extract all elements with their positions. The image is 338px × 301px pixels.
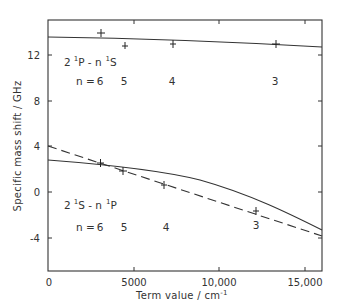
upper-fit-line — [48, 37, 322, 47]
upper-n-4: 4 — [169, 75, 176, 87]
x-ticks — [134, 267, 305, 271]
y-tick-8: 8 — [34, 96, 40, 107]
y-tick-4: 4 — [34, 141, 40, 152]
plus-marker-icon — [119, 167, 127, 175]
plus-marker-icon — [170, 40, 176, 48]
y-tick-minus4: -4 — [30, 233, 40, 244]
plus-marker-icon — [97, 159, 104, 167]
lower-n-3: 3 — [253, 219, 260, 231]
lower-n-4: 4 — [163, 221, 170, 233]
lower-transition-label: 21S - n1P — [64, 198, 117, 211]
y-tick-12: 12 — [27, 50, 40, 61]
lower-n-6: 6 — [97, 221, 104, 233]
y-axis-label: Specific mass shift / GHz — [12, 81, 23, 212]
upper-n-prefix: n = — [76, 75, 95, 87]
x-tick-0: 0 — [46, 277, 52, 288]
right-ticks — [318, 55, 322, 238]
y-tick-0: 0 — [34, 187, 40, 198]
x-tick-15000: 15,000 — [288, 277, 323, 288]
lower-n-prefix: n = — [76, 221, 95, 233]
mass-shift-chart: 12 8 4 0 -4 0 5000 10,000 15,000 Term va… — [0, 0, 338, 301]
upper-n-5: 5 — [121, 75, 128, 87]
upper-n-3: 3 — [272, 75, 279, 87]
plus-marker-icon — [161, 181, 167, 189]
plus-marker-icon — [122, 42, 128, 49]
plus-marker-icon — [272, 40, 280, 48]
upper-transition-label: 21P - n1S — [64, 55, 117, 68]
lower-n-5: 5 — [121, 221, 128, 233]
plus-marker-icon — [97, 29, 105, 37]
x-tick-5000: 5000 — [121, 277, 146, 288]
x-axis-label: Term value / cm-1 — [135, 289, 228, 301]
x-tick-10000: 10,000 — [202, 277, 237, 288]
upper-n-6: 6 — [97, 75, 104, 87]
lower-fit-solid-line — [48, 160, 322, 230]
top-ticks — [134, 20, 305, 24]
